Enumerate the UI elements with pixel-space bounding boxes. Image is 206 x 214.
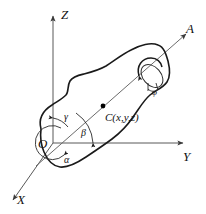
beta-angle-label: β — [81, 128, 86, 138]
center-point-marker — [101, 104, 106, 109]
x-axis-label: X — [17, 193, 25, 206]
diagram-canvas — [0, 0, 206, 214]
y-axis-label: Y — [183, 150, 190, 163]
gamma-angle-label: γ — [64, 112, 68, 122]
phi-angle-label: φ — [152, 88, 157, 97]
center-point-label: C(x,y,z) — [105, 112, 139, 123]
origin-label: O — [38, 137, 47, 150]
a-axis-label: A — [186, 22, 194, 35]
alpha-angle-label: α — [64, 155, 69, 165]
z-axis-label: Z — [61, 8, 68, 21]
rotation-axis-diagram: Z A Y X O γ β α φ C(x,y,z) — [0, 0, 206, 214]
